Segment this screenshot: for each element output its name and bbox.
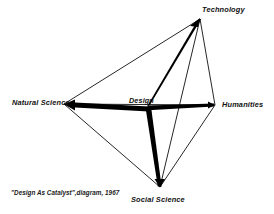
arrow-design-to-technology	[146, 18, 201, 107]
node-label-humanities: Humanities	[222, 101, 263, 108]
edge-technology-social	[160, 19, 200, 187]
arrow-design-to-social	[146, 108, 162, 187]
node-label-technology: Technology	[202, 6, 245, 13]
arrowhead-humanities	[208, 102, 215, 109]
diagram-canvas: Technology Natural Science Humanities So…	[0, 0, 274, 214]
edge-natural-social	[64, 104, 160, 187]
edge-humanities-social	[160, 105, 215, 187]
node-label-design: Design	[129, 97, 154, 104]
edge-technology-humanities	[200, 19, 215, 105]
node-label-social-science: Social Science	[131, 196, 185, 203]
node-label-natural-science: Natural Science	[12, 99, 70, 106]
edge-natural-technology	[64, 19, 200, 104]
figure-caption: "Design As Catalyst",diagram, 1967	[11, 190, 119, 196]
